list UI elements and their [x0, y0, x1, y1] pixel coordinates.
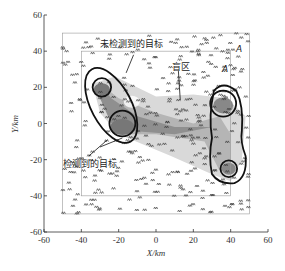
- sensor-glyph: [221, 179, 225, 181]
- sensor-marker: [192, 73, 196, 75]
- sensor-marker: [239, 200, 243, 202]
- sensor-glyph: [239, 37, 243, 39]
- sensor-marker: [131, 51, 135, 53]
- sensor-marker: [179, 84, 183, 86]
- figure-canvas: -60-40-2002040606040200-20-40-60 未检测到的目标…: [0, 0, 285, 271]
- sensor-marker: [245, 33, 249, 35]
- sensor-glyph: [218, 34, 222, 36]
- sensor-glyph: [82, 101, 86, 103]
- sensor-glyph: [247, 115, 251, 117]
- sensor-marker: [141, 160, 145, 162]
- sensor-glyph: [231, 74, 235, 76]
- sensor-glyph: [83, 124, 87, 126]
- sensor-marker: [150, 172, 154, 174]
- sensor-marker: [200, 43, 204, 45]
- sensor-marker: [84, 120, 88, 122]
- sensor-glyph: [95, 206, 99, 208]
- sensor-glyph: [231, 49, 235, 51]
- sensor-glyph: [74, 146, 78, 148]
- sensor-glyph: [71, 205, 75, 207]
- sensor-glyph: [209, 63, 213, 65]
- sensor-glyph: [76, 193, 80, 195]
- sensor-marker: [93, 180, 97, 182]
- sensor-glyph: [122, 77, 126, 79]
- sensor-marker: [171, 72, 175, 74]
- sensor-marker: [126, 139, 130, 141]
- sensor-glyph: [166, 90, 170, 92]
- sensor-glyph: [154, 169, 158, 171]
- sensor-glyph: [144, 183, 148, 185]
- sensor-marker: [61, 48, 65, 50]
- sensor-marker: [201, 208, 205, 210]
- sensor-marker: [167, 173, 171, 175]
- sensor-marker: [188, 205, 192, 207]
- sensor-glyph: [203, 37, 207, 39]
- sensor-glyph: [219, 94, 223, 96]
- sensor-marker: [185, 173, 189, 175]
- sensor-marker: [69, 171, 73, 173]
- sensor-glyph: [128, 199, 132, 201]
- sensor-glyph: [141, 160, 145, 162]
- dense-target-spot: [94, 83, 110, 95]
- sensor-marker: [61, 212, 65, 214]
- sensor-glyph: [238, 86, 242, 88]
- sensor-marker: [206, 75, 210, 77]
- sensor-marker: [90, 203, 94, 205]
- sensor-glyph: [167, 173, 171, 175]
- sensor-glyph: [191, 203, 195, 205]
- sensor-glyph: [195, 185, 199, 187]
- sensor-marker: [240, 68, 244, 70]
- sensor-marker: [179, 55, 183, 57]
- sensor-marker: [184, 195, 188, 197]
- sensor-marker: [75, 139, 79, 141]
- sensor-glyph: [146, 159, 150, 161]
- sensor-glyph: [135, 190, 139, 192]
- undetected-target-label: 未检测到的目标: [100, 38, 163, 49]
- sensor-glyph: [81, 47, 85, 49]
- sensor-marker: [228, 42, 232, 44]
- sensor-marker: [115, 175, 119, 177]
- y-tick-label: -20: [30, 155, 42, 165]
- sensor-marker: [227, 206, 231, 208]
- sensor-marker: [179, 185, 183, 187]
- sensor-marker: [65, 50, 69, 52]
- sensor-glyph: [93, 180, 97, 182]
- sensor-glyph: [84, 120, 88, 122]
- sensor-glyph: [69, 102, 73, 104]
- sensor-glyph: [171, 171, 175, 173]
- sensor-glyph: [211, 182, 215, 184]
- sensor-glyph: [150, 172, 154, 174]
- sensor-glyph: [193, 36, 197, 38]
- sensor-marker: [82, 101, 86, 103]
- sensor-marker: [214, 66, 218, 68]
- sensor-marker: [83, 124, 87, 126]
- sensor-marker: [204, 91, 208, 93]
- sensor-glyph: [188, 191, 192, 193]
- sensor-marker: [147, 35, 151, 37]
- sensor-marker: [108, 173, 112, 175]
- sensor-glyph: [175, 38, 179, 40]
- sensor-glyph: [206, 75, 210, 77]
- sensor-marker: [175, 88, 179, 90]
- sensor-glyph: [90, 203, 94, 205]
- sensor-glyph: [200, 43, 204, 45]
- sensor-glyph: [192, 80, 196, 82]
- blind-zone-label: 盲区: [172, 61, 190, 72]
- sensor-marker: [138, 196, 142, 198]
- sensor-glyph: [112, 187, 116, 189]
- sensor-glyph: [161, 77, 165, 79]
- x-tick-label: -20: [113, 235, 125, 245]
- sensor-glyph: [201, 190, 205, 192]
- sensor-glyph: [143, 209, 147, 211]
- sensor-marker: [241, 160, 245, 162]
- sensor-glyph: [136, 49, 140, 51]
- y-tick-label: 20: [33, 82, 43, 92]
- sensor-marker: [84, 204, 88, 206]
- sensor-glyph: [147, 62, 151, 64]
- sensor-glyph: [224, 192, 228, 194]
- sensor-marker: [232, 177, 236, 179]
- sensor-glyph: [201, 197, 205, 199]
- sensor-marker: [219, 94, 223, 96]
- sensor-marker: [153, 191, 157, 193]
- sensor-marker: [67, 182, 71, 184]
